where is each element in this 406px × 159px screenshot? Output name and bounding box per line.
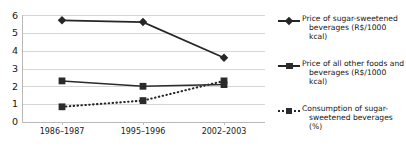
x-tick-mark-2 xyxy=(143,122,144,125)
series-lines xyxy=(22,15,265,122)
legend-item-other-foods-price[interactable]: Price of all other foods andbeverages (R… xyxy=(278,59,406,87)
legend-label-other-foods-price-line2: beverages (R$/1000 kcal) xyxy=(302,68,406,86)
y-axis-tick-1: 1 xyxy=(4,99,18,108)
legend-label-ssb-price-line2: beverages (R$/1000 kcal) xyxy=(302,23,406,41)
point-ssb-price-1 xyxy=(58,16,66,24)
x-axis-tick-1986-1987: 1986–1987 xyxy=(30,128,94,136)
y-axis-tick-6: 6 xyxy=(4,11,18,20)
legend-item-ssb-price[interactable]: Price of sugar-sweetenedbeverages (R$/10… xyxy=(278,14,406,42)
y-axis-tick-4: 4 xyxy=(4,46,18,55)
y-axis-tick-0: 0 xyxy=(4,117,18,126)
x-axis-tick-2002-2003: 2002–2003 xyxy=(192,128,256,136)
y-axis-tick-5: 5 xyxy=(4,28,18,37)
y-axis-tick-3: 3 xyxy=(4,64,18,73)
legend-marker-square-line-icon xyxy=(278,61,300,71)
point-ssb-price-2 xyxy=(139,18,147,26)
chart-legend: Price of sugar-sweetenedbeverages (R$/10… xyxy=(278,0,406,159)
legend-label-other-foods-price: Price of all other foods andbeverages (R… xyxy=(300,59,406,87)
legend-marker-square-dotted-icon xyxy=(278,106,300,116)
x-tick-mark-3 xyxy=(224,122,225,125)
y-axis-tick-2: 2 xyxy=(4,82,18,91)
chart-figure: 6 5 4 3 2 1 0 xyxy=(0,0,406,159)
legend-label-ssb-consumption: Consumption of sugar-sweetened beverages… xyxy=(300,104,406,132)
point-other-foods-3 xyxy=(221,81,228,88)
legend-label-ssb-consumption-line1: Consumption of sugar- xyxy=(302,104,388,113)
legend-label-ssb-price: Price of sugar-sweetenedbeverages (R$/10… xyxy=(300,14,406,42)
x-tick-mark-1 xyxy=(62,122,63,125)
point-other-foods-2 xyxy=(140,83,147,90)
point-other-foods-1 xyxy=(59,78,66,85)
legend-item-ssb-consumption[interactable]: Consumption of sugar-sweetened beverages… xyxy=(278,104,406,132)
plot-area xyxy=(22,15,265,122)
legend-label-other-foods-price-line1: Price of all other foods and xyxy=(302,59,404,68)
legend-marker-diamond-line-icon xyxy=(278,16,300,26)
legend-label-ssb-price-line1: Price of sugar-sweetened xyxy=(302,14,398,23)
x-axis-tick-1995-1996: 1995–1996 xyxy=(111,128,175,136)
point-consumption-2 xyxy=(140,97,147,104)
legend-label-ssb-consumption-line2: sweetened beverages (%) xyxy=(302,113,406,131)
point-ssb-price-3 xyxy=(220,54,228,62)
point-consumption-1 xyxy=(59,103,66,110)
